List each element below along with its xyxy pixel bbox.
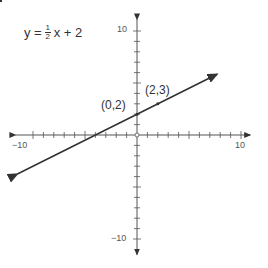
axis-ticks xyxy=(33,31,241,239)
equation-rhs: x + 2 xyxy=(54,25,83,40)
y-tick-label-min: −10 xyxy=(111,233,126,243)
y-tick-label-max: 10 xyxy=(117,24,127,34)
point-label-2-3: (2,3) xyxy=(145,83,170,97)
axes xyxy=(15,19,250,254)
function-line xyxy=(17,74,217,174)
equation-label: y = 1 2 x + 2 xyxy=(24,24,82,41)
point-label-0-2: (0,2) xyxy=(101,98,126,112)
x-tick-label-min: −10 xyxy=(12,140,27,150)
x-tick-label-max: 10 xyxy=(235,140,245,150)
equation-fraction: 1 2 xyxy=(45,24,51,41)
equation-lhs: y = xyxy=(24,25,42,40)
